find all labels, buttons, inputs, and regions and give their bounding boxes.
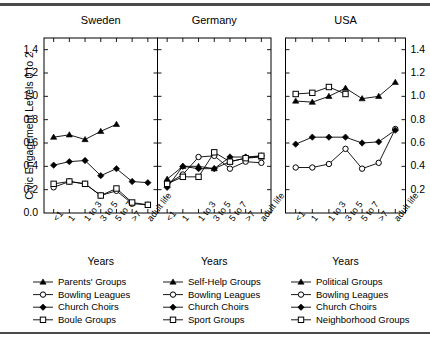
figure-root: Sweden Germany USA Civic Engagement Leve… — [0, 0, 430, 337]
series-bowling-leagues — [293, 126, 398, 171]
series-parents-groups — [51, 121, 120, 141]
plot-canvas — [0, 0, 430, 337]
panel-axes-sweden — [44, 38, 158, 213]
panel-axes-usa — [286, 38, 406, 213]
series-church-choirs — [293, 127, 399, 147]
panel-axes-germany — [158, 38, 272, 213]
series-church-choirs — [50, 157, 151, 186]
